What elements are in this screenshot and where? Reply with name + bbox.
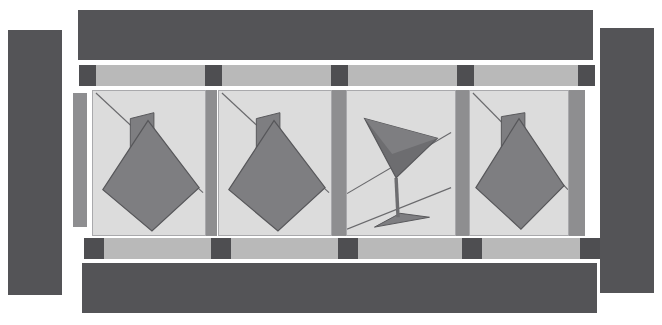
strip-segment-dark-0: [84, 238, 104, 259]
panel-martini-glass: [346, 90, 456, 236]
top-perforation-strip: [79, 65, 595, 86]
strip-segment-light-5: [348, 65, 457, 86]
top-horizontal-bar: [78, 10, 593, 60]
strip-segment-dark-6: [462, 238, 482, 259]
strip-segment-light-3: [231, 238, 338, 259]
strip-segment-light-5: [358, 238, 462, 259]
strip-segment-light-3: [222, 65, 331, 86]
separator-4: [569, 90, 585, 236]
bottom-perforation-strip: [84, 238, 600, 259]
separator-3: [455, 90, 469, 236]
right-vertical-bar: [600, 28, 654, 293]
strip-segment-dark-4: [338, 238, 358, 259]
strip-segment-light-7: [474, 65, 578, 86]
kite-body: [229, 121, 325, 231]
strip-segment-light-1: [104, 238, 211, 259]
kite-body: [103, 121, 199, 231]
strip-segment-dark-2: [211, 238, 231, 259]
strip-segment-light-7: [482, 238, 580, 259]
strip-segment-light-1: [96, 65, 205, 86]
glass-stem: [396, 178, 398, 217]
composition-canvas: [0, 0, 662, 325]
left-inner-rail: [73, 93, 87, 227]
strip-segment-dark-6: [457, 65, 474, 86]
strip-segment-dark-8: [578, 65, 595, 86]
panel-kite-2: [218, 90, 332, 236]
panel-kite-3: [469, 90, 569, 236]
bottom-horizontal-bar: [82, 263, 597, 313]
left-vertical-bar: [8, 30, 62, 295]
strip-segment-dark-4: [331, 65, 348, 86]
strip-segment-dark-8: [580, 238, 600, 259]
strip-segment-dark-0: [79, 65, 96, 86]
panel-kite-1: [92, 90, 206, 236]
separator-2: [332, 90, 346, 236]
kite-body: [476, 119, 564, 229]
strip-segment-dark-2: [205, 65, 222, 86]
